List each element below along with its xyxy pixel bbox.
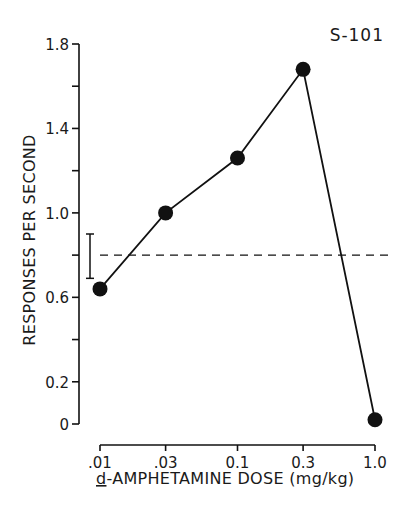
data-point-marker xyxy=(368,412,383,427)
data-series xyxy=(93,62,383,427)
data-point-marker xyxy=(93,281,108,296)
x-tick-label: 1.0 xyxy=(363,454,387,472)
x-axis-title: d-AMPHETAMINE DOSE (mg/kg) xyxy=(96,469,354,488)
y-tick-label: 1.4 xyxy=(45,120,69,138)
data-point-marker xyxy=(296,62,311,77)
x-axis: .01.030.10.31.0 xyxy=(88,445,387,472)
y-tick-label: 0.2 xyxy=(45,374,69,392)
control-reference xyxy=(86,234,388,278)
x-axis-title-prefix: d xyxy=(96,469,106,488)
x-axis-title-rest: -AMPHETAMINE DOSE (mg/kg) xyxy=(106,469,354,488)
subject-label: S-101 xyxy=(330,25,384,45)
data-point-marker xyxy=(158,205,173,220)
y-axis: 00.20.61.01.41.8 xyxy=(45,36,79,434)
y-tick-label: 0 xyxy=(59,416,69,434)
y-tick-label: 1.0 xyxy=(45,205,69,223)
dose-response-chart: 00.20.61.01.41.8 .01.030.10.31.0 S-101 R… xyxy=(0,0,410,519)
data-point-marker xyxy=(230,151,245,166)
y-axis-title: RESPONSES PER SECOND xyxy=(20,134,39,345)
y-tick-label: 1.8 xyxy=(45,36,69,54)
y-tick-label: 0.6 xyxy=(45,289,69,307)
series-line xyxy=(100,69,375,419)
